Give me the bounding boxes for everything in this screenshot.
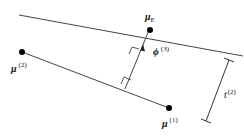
right-angle-upper-icon [129, 47, 139, 54]
mu2-label: μ(2) [10, 61, 27, 74]
mu-e-label: μE [144, 11, 155, 24]
mu-e-point [147, 27, 153, 33]
mu1-point [166, 105, 172, 111]
perpendicular-segment [125, 30, 149, 89]
arrow-head-icon [141, 44, 146, 52]
mu2-point [19, 49, 25, 55]
phi3-label: ϕ(3) [153, 45, 170, 57]
lower-line [22, 52, 169, 108]
t2-label: t(2) [224, 88, 237, 100]
mu1-label: μ(1) [161, 116, 178, 129]
diagram-canvas: μE ϕ(3) μ(2) μ(1) t(2) [0, 0, 244, 138]
